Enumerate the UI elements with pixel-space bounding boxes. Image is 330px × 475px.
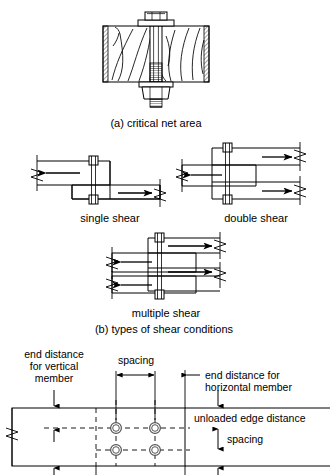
label-end-distance-vertical-line1: end distance [24,348,84,360]
label-multiple-shear: multiple shear [132,307,201,319]
label-spacing-right: spacing [227,433,263,445]
label-end-distance-vertical-line3: member [35,372,74,384]
caption-shear-conditions: (b) types of shear conditions [95,323,234,335]
engineering-figure: (a) critical net area single shear [0,0,330,475]
bolt-hole [150,445,161,456]
vertical-member-outline [12,408,185,466]
label-end-distance-horizontal-line2: horizontal member [205,381,292,393]
label-unloaded-edge-distance: unloaded edge distance [194,412,306,424]
label-single-shear: single shear [80,212,140,224]
caption-critical-net-area: (a) critical net area [110,117,202,129]
figure-page: { "figure": { "title_a": "(a) critical n… [0,0,330,475]
bolt-hole [111,423,122,434]
label-double-shear: double shear [224,212,288,224]
label-spacing-top: spacing [118,354,154,366]
bolt-hole [150,423,161,434]
bolt-hole [111,445,122,456]
bolt-threads [150,63,162,82]
label-end-distance-horizontal-line1: end distance for [205,369,280,381]
label-end-distance-vertical-line2: for vertical [30,360,78,372]
